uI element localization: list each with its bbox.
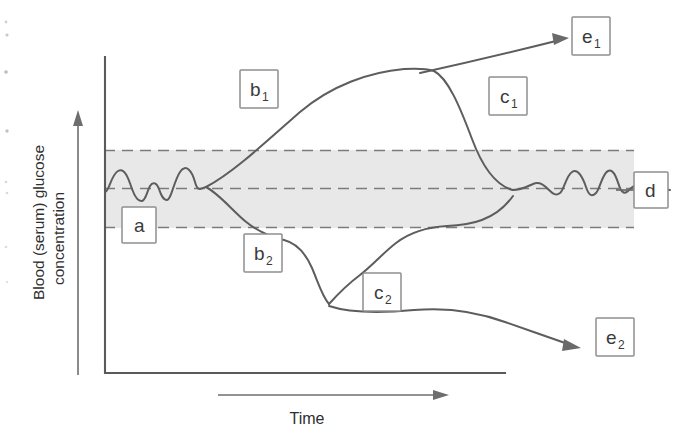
label-b1-subscript: 1 xyxy=(262,90,269,104)
scan-artifacts xyxy=(4,21,9,284)
label-d-text: d xyxy=(645,180,656,201)
label-box-a: a xyxy=(122,207,156,243)
label-e2-text: e xyxy=(606,327,617,348)
label-box-e1: e 1 xyxy=(572,17,610,55)
label-b2-text: b xyxy=(254,243,265,264)
label-box-b2: b 2 xyxy=(244,234,282,272)
label-box-e2: e 2 xyxy=(596,318,634,356)
label-b2-subscript: 2 xyxy=(266,254,273,268)
curve-continued-rise-e1 xyxy=(420,33,569,73)
label-box-c1: c 1 xyxy=(489,77,527,115)
y-axis-arrow xyxy=(73,110,83,375)
label-c2-text: c xyxy=(374,282,384,303)
y-axis-label-line1: Blood (serum) glucose xyxy=(30,145,47,300)
y-axis-label-line2: concentration xyxy=(50,192,67,285)
x-axis-label: Time xyxy=(290,410,325,427)
label-c1-text: c xyxy=(500,86,510,107)
label-box-b1: b 1 xyxy=(240,70,278,108)
x-axis-arrow xyxy=(218,390,449,400)
curve-continued-fall-e2 xyxy=(329,306,581,351)
label-c1-subscript: 1 xyxy=(511,97,518,111)
label-c2-subscript: 2 xyxy=(385,293,392,307)
label-e2-subscript: 2 xyxy=(618,338,625,352)
figure-canvas: a b 1 b 2 c 1 c 2 d e 1 xyxy=(0,0,692,441)
label-b1-text: b xyxy=(250,79,261,100)
label-box-c2: c 2 xyxy=(363,273,401,311)
label-e1-text: e xyxy=(582,26,593,47)
label-a-text: a xyxy=(134,215,145,236)
label-box-d: d xyxy=(634,172,668,208)
glucose-homeostasis-figure: a b 1 b 2 c 1 c 2 d e 1 xyxy=(0,0,692,441)
label-e1-subscript: 1 xyxy=(594,37,601,51)
